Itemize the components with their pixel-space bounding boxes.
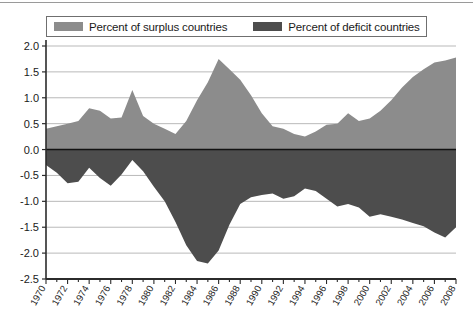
legend-entry-surplus: Percent of surplus countries: [54, 21, 227, 33]
legend-swatch-deficit: [253, 22, 282, 31]
x-axis-tick-label: 1994: [287, 284, 307, 308]
x-axis-tick-label: 1996: [308, 284, 328, 308]
y-axis-tick-label: 1.0: [24, 92, 39, 104]
y-axis-tick-label: -1.5: [20, 221, 39, 233]
x-axis-tick-label: 1992: [265, 284, 285, 308]
y-axis-tick-label: -1.0: [20, 195, 39, 207]
x-axis-tick-label: 1998: [330, 284, 350, 308]
y-axis-tick-label: 0.0: [24, 144, 39, 156]
y-axis-tick-label: -0.5: [20, 169, 39, 181]
chart-figure: Percent of surplus countries Percent of …: [0, 0, 473, 319]
x-axis-tick-label: 1976: [92, 284, 112, 308]
chart-legend: Percent of surplus countries Percent of …: [46, 16, 427, 37]
x-axis-tick-label: 1986: [200, 284, 220, 308]
x-axis-tick-label: 2006: [416, 284, 436, 308]
x-axis-tick-label: 1980: [136, 284, 156, 308]
x-axis-tick-label: 2008: [438, 284, 458, 308]
x-axis-tick-label: 1974: [71, 284, 91, 308]
legend-entry-deficit: Percent of deficit countries: [253, 21, 419, 33]
x-axis-tick-label: 1990: [243, 284, 263, 308]
x-axis-tick-label: 1970: [28, 284, 48, 308]
x-axis-tick-label: 1984: [179, 284, 199, 308]
y-axis-tick-label: 1.5: [24, 66, 39, 78]
x-axis-tick-label: 2000: [351, 284, 371, 308]
x-axis-tick-label: 1982: [157, 284, 177, 308]
chart-plot-area: 2.01.51.00.50.0-0.5-1.0-1.5-2.0-2.519701…: [0, 0, 473, 319]
legend-label-deficit: Percent of deficit countries: [288, 21, 419, 33]
x-axis-tick-label: 1978: [114, 284, 134, 308]
area-series-surplus: [46, 57, 456, 149]
x-axis-tick-label: 1988: [222, 284, 242, 308]
y-axis-tick-label: 2.0: [24, 40, 39, 52]
legend-label-surplus: Percent of surplus countries: [89, 21, 227, 33]
y-axis-tick-label: -2.5: [20, 273, 39, 285]
y-axis-tick-label: -2.0: [20, 247, 39, 259]
area-series-deficit: [46, 150, 456, 264]
legend-swatch-surplus: [54, 22, 83, 31]
x-axis-tick-label: 2004: [394, 284, 414, 308]
y-axis-tick-label: 0.5: [24, 118, 39, 130]
x-axis-tick-label: 1972: [49, 284, 69, 308]
x-axis-tick-label: 2002: [373, 284, 393, 308]
